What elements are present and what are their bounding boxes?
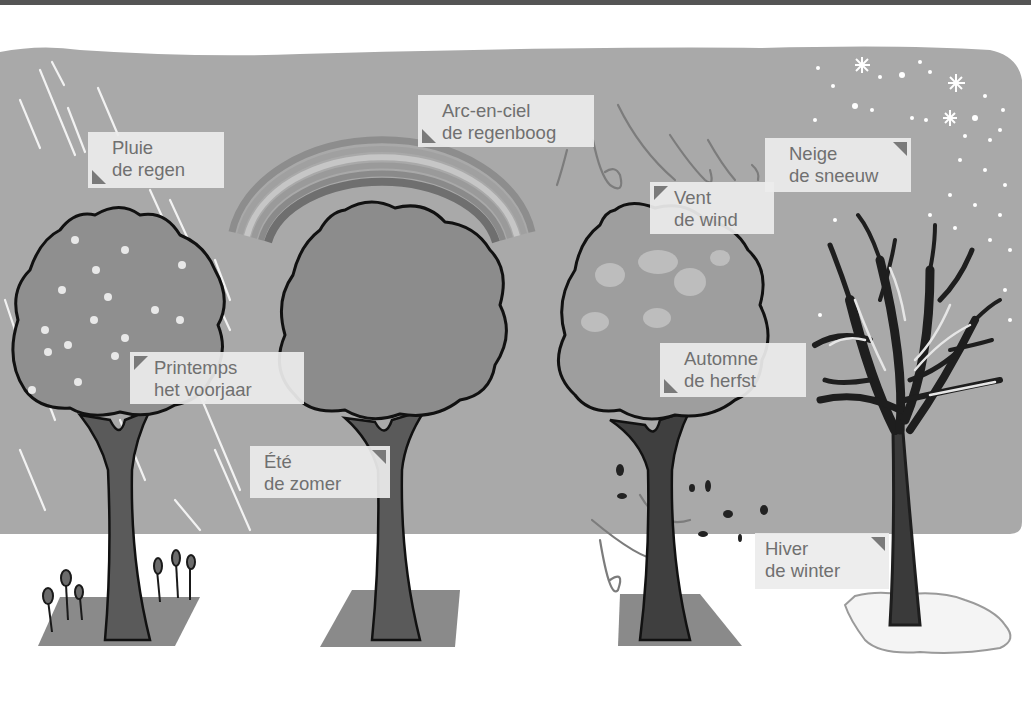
label-snow-fr: Neige [789,143,901,165]
label-wind: Vent de wind [650,182,774,234]
corner-marker-icon [372,450,386,464]
corner-marker-icon [654,186,668,200]
corner-marker-icon [134,356,148,370]
corner-marker-icon [893,142,907,156]
label-wind-fr: Vent [674,187,764,209]
snow-pile [845,593,1010,653]
label-rain-fr: Pluie [112,137,214,159]
label-summer-nl: de zomer [264,473,380,495]
label-spring-nl: het voorjaar [154,379,294,401]
label-autumn-fr: Automne [684,348,796,370]
label-rain: Pluie de regen [88,132,224,188]
corner-marker-icon [664,379,678,393]
label-winter: Hiver de winter [755,533,889,589]
label-autumn: Automne de herfst [660,343,806,397]
label-snow-nl: de sneeuw [789,165,901,187]
label-rainbow: Arc-en-ciel de regenboog [418,95,594,147]
label-summer-fr: Été [264,451,380,473]
label-snow: Neige de sneeuw [765,138,911,192]
corner-marker-icon [422,129,436,143]
label-winter-fr: Hiver [765,538,879,560]
label-spring: Printemps het voorjaar [130,352,304,404]
corner-marker-icon [871,537,885,551]
label-spring-fr: Printemps [154,357,294,379]
label-rainbow-nl: de regenboog [442,122,584,144]
label-autumn-nl: de herfst [684,370,796,392]
label-rain-nl: de regen [112,159,214,181]
label-rainbow-fr: Arc-en-ciel [442,100,584,122]
label-summer: Été de zomer [250,446,390,498]
corner-marker-icon [92,170,106,184]
label-winter-nl: de winter [765,560,879,582]
label-wind-nl: de wind [674,209,764,231]
